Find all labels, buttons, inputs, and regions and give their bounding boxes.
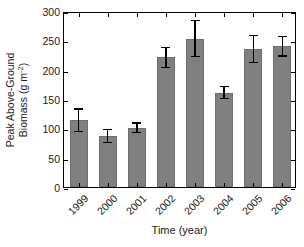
error-bar-cap-lower: [249, 62, 258, 63]
x-axis-tick-mark: [195, 183, 196, 187]
error-bar-cap-lower: [103, 142, 112, 143]
bar: [99, 136, 117, 187]
x-axis-tick-mark: [282, 183, 283, 187]
plot-area: [63, 12, 296, 188]
error-bar-cap-lower: [220, 98, 229, 99]
error-bar-cap-lower: [191, 56, 200, 57]
bar-chart-figure: Peak Above-Ground Biomass (g m-2) 050100…: [0, 0, 304, 247]
x-axis-tick-mark-top: [224, 13, 225, 17]
y-axis-tick-label: 100: [32, 124, 60, 134]
error-bar-line: [78, 109, 79, 131]
x-axis-tick-mark-top: [166, 13, 167, 17]
y-axis-tick-mark: [64, 160, 68, 161]
plot-inner: [64, 13, 295, 187]
y-axis-tick-label: 50: [32, 154, 60, 164]
error-bar-cap-upper: [191, 20, 200, 21]
error-bar-cap-upper: [132, 122, 141, 123]
error-bar-cap-upper: [103, 129, 112, 130]
error-bar-cap-lower: [132, 132, 141, 133]
x-axis-tick-label: 1999: [62, 192, 90, 220]
error-bar-line: [194, 20, 195, 56]
x-axis-tick-mark-top: [253, 13, 254, 17]
x-axis-tick-mark: [108, 183, 109, 187]
y-axis-tick-mark-right: [291, 72, 295, 73]
y-axis-tick-label: 250: [32, 36, 60, 46]
x-axis-tick-mark-top: [282, 13, 283, 17]
y-axis-tick-label: 200: [32, 66, 60, 76]
x-axis-tick-mark-top: [195, 13, 196, 17]
x-axis-tick-label: 2001: [120, 192, 148, 220]
bar: [215, 93, 233, 187]
error-bar-line: [282, 36, 283, 56]
y-axis-tick-mark-right: [291, 13, 295, 14]
y-axis-tick-labels: 050100150200250300: [30, 0, 60, 247]
error-bar-cap-upper: [278, 36, 287, 37]
y-axis-title-line1: Peak Above-Ground: [4, 53, 16, 148]
y-axis-tick-label: 300: [32, 7, 60, 17]
error-bar-line: [223, 87, 224, 99]
y-axis-title: Peak Above-Ground Biomass (g m-2): [0, 0, 34, 200]
x-axis-tick-mark: [79, 183, 80, 187]
x-axis-tick-mark-top: [137, 13, 138, 17]
x-axis-tick-mark: [166, 183, 167, 187]
bar: [128, 128, 146, 187]
error-bar-cap-upper: [220, 86, 229, 87]
y-axis-title-line2-suffix: ): [17, 63, 29, 67]
x-axis-tick-mark: [253, 183, 254, 187]
y-axis-tick-mark: [64, 101, 68, 102]
x-axis-tick-label: 2005: [237, 192, 265, 220]
x-axis-tick-label: 2003: [178, 192, 206, 220]
y-axis-title-line2: Biomass (g m-2): [17, 53, 30, 148]
bar: [273, 46, 291, 187]
error-bar-line: [253, 36, 254, 63]
error-bar-line: [165, 47, 166, 67]
x-axis-title: Time (year): [63, 224, 296, 236]
bar: [157, 57, 175, 187]
x-axis-tick-label: 2000: [91, 192, 119, 220]
bar: [186, 39, 204, 187]
y-axis-tick-mark-right: [291, 101, 295, 102]
error-bar-cap-upper: [74, 108, 83, 109]
y-axis-tick-mark: [64, 72, 68, 73]
x-axis-tick-mark: [224, 183, 225, 187]
error-bar-cap-lower: [74, 131, 83, 132]
y-axis-tick-label: 150: [32, 95, 60, 105]
y-axis-tick-label: 0: [32, 183, 60, 193]
x-axis-tick-mark-top: [108, 13, 109, 17]
y-axis-tick-mark-right: [291, 160, 295, 161]
y-axis-tick-mark-right: [291, 130, 295, 131]
x-axis-tick-label: 2006: [266, 192, 294, 220]
y-axis-title-exponent: -2: [16, 66, 25, 73]
error-bar-cap-lower: [161, 67, 170, 68]
x-axis-tick-mark-top: [79, 13, 80, 17]
bar: [244, 49, 262, 187]
y-axis-tick-mark-right: [291, 42, 295, 43]
error-bar-cap-upper: [249, 35, 258, 36]
error-bar-cap-upper: [161, 47, 170, 48]
x-axis-tick-mark: [137, 183, 138, 187]
y-axis-tick-mark: [64, 42, 68, 43]
y-axis-tick-mark: [64, 13, 68, 14]
y-axis-title-line2-prefix: Biomass (g m: [17, 73, 29, 137]
error-bar-cap-lower: [278, 55, 287, 56]
x-axis-tick-label: 2004: [207, 192, 235, 220]
x-axis-tick-label: 2002: [149, 192, 177, 220]
y-axis-tick-mark: [64, 130, 68, 131]
error-bar-line: [107, 130, 108, 143]
